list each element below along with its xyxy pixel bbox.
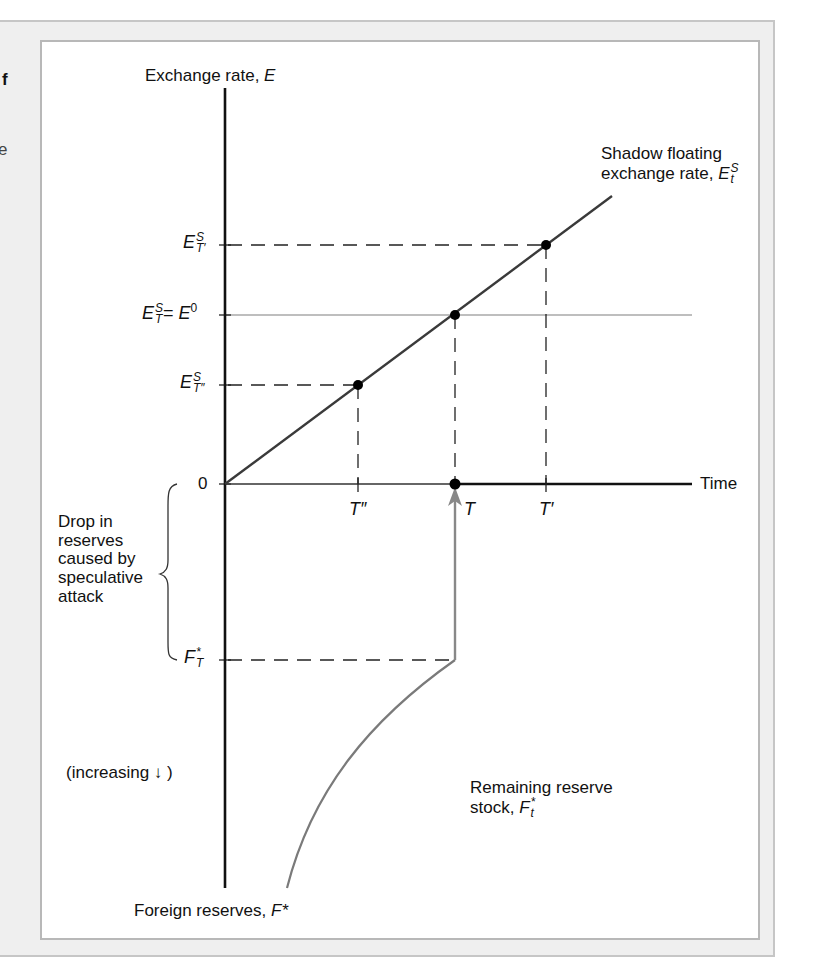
tick-rhs-var: E bbox=[179, 303, 191, 323]
tick-label-t-dprime: T″ bbox=[349, 499, 366, 519]
key-points bbox=[353, 240, 551, 490]
tick-var: E bbox=[142, 303, 154, 323]
remaining-var: F bbox=[519, 798, 529, 817]
bottom-axis-title: Foreign reserves, F* bbox=[134, 901, 288, 920]
tick-label-t-prime: T′ bbox=[539, 499, 553, 519]
remaining-reserve-curve bbox=[287, 660, 455, 888]
tick-supsub: ST′ bbox=[196, 232, 206, 255]
remaining-reserve-label-text: stock, bbox=[470, 798, 519, 817]
shadow-exchange-rate-line bbox=[225, 196, 612, 484]
tick-var: E bbox=[183, 232, 195, 252]
tick-supsub: *T bbox=[196, 647, 203, 670]
tick-sub: T″ bbox=[193, 383, 205, 394]
tick-label-e-t-dprime: EST″ bbox=[180, 372, 205, 395]
drop-label-line: speculative bbox=[58, 569, 143, 588]
tick-sub: T bbox=[196, 658, 203, 669]
x-axis-title: Time bbox=[700, 474, 737, 493]
shadow-var: E bbox=[718, 164, 729, 183]
tick-var: F bbox=[184, 647, 195, 667]
remaining-supsub: *t bbox=[531, 797, 536, 820]
shadow-supsub: St bbox=[731, 163, 739, 186]
tick-sub: T bbox=[155, 314, 163, 325]
tick-label-e-t: EST= E0 bbox=[142, 302, 197, 326]
tick-label-f-t: F*T bbox=[184, 647, 203, 670]
bottom-axis-title-text: Foreign reserves, bbox=[134, 901, 271, 920]
shadow-rate-label-line2: exchange rate, ESt bbox=[601, 163, 739, 186]
remaining-reserve-label: Remaining reserve stock, F*t bbox=[470, 778, 613, 820]
origin-label: 0 bbox=[198, 474, 207, 493]
drop-in-reserves-label: Drop in reserves caused by speculative a… bbox=[58, 513, 143, 606]
tick-label-e-t-prime: EST′ bbox=[183, 232, 206, 255]
shadow-rate-label-text: exchange rate, bbox=[601, 164, 718, 183]
tick-supsub: ST bbox=[155, 303, 163, 326]
drop-label-line: Drop in bbox=[58, 513, 143, 532]
drop-label-line: reserves bbox=[58, 532, 143, 551]
shadow-rate-label-line1: Shadow floating bbox=[601, 144, 739, 163]
remaining-reserve-label-line2: stock, F*t bbox=[470, 797, 613, 820]
remaining-sub: t bbox=[531, 808, 536, 819]
y-axis-title-text: Exchange rate, bbox=[145, 66, 264, 85]
tick-eq: = bbox=[163, 303, 179, 323]
bottom-axis-title-var: F* bbox=[271, 901, 288, 920]
remaining-reserve-label-line1: Remaining reserve bbox=[470, 778, 613, 797]
increasing-direction-label: (increasing ↓ ) bbox=[66, 763, 173, 782]
drop-label-line: attack bbox=[58, 588, 143, 607]
dashed-guides bbox=[228, 245, 546, 660]
tick-sub: T′ bbox=[196, 243, 206, 254]
drop-label-line: caused by bbox=[58, 550, 143, 569]
shadow-sub: t bbox=[731, 174, 739, 185]
brace-icon bbox=[160, 484, 177, 660]
tick-supsub: ST″ bbox=[193, 372, 205, 395]
tick-rhs-sup: 0 bbox=[191, 301, 198, 315]
tick-label-t: T bbox=[464, 499, 475, 519]
y-axis-title-var: E bbox=[264, 66, 275, 85]
tick-var: E bbox=[180, 372, 192, 392]
shadow-rate-label: Shadow floating exchange rate, ESt bbox=[601, 144, 739, 186]
y-axis-title: Exchange rate, E bbox=[145, 66, 275, 85]
